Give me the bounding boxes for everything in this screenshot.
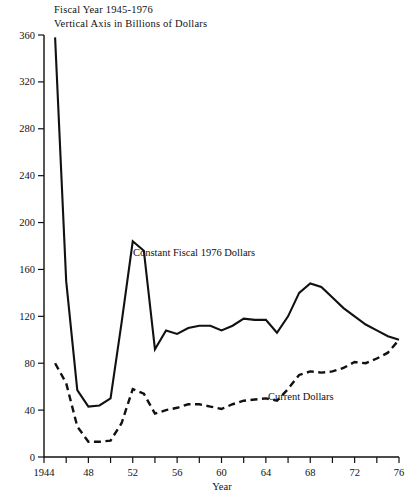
series-line-constant-fiscal-1976-dollars bbox=[55, 37, 399, 406]
x-tick-label: 1944 bbox=[34, 467, 56, 478]
y-tick-label: 0 bbox=[30, 452, 35, 463]
x-tick-label: 52 bbox=[128, 467, 139, 478]
chart-container: Fiscal Year 1945-1976 Vertical Axis in B… bbox=[0, 0, 415, 500]
annotation-current-dollars: Current Dollars bbox=[268, 391, 334, 402]
x-tick-label: 72 bbox=[349, 467, 360, 478]
y-tick-label: 160 bbox=[19, 264, 35, 275]
line-chart-svg: 04080120160200240280320360 1944485256606… bbox=[0, 0, 415, 500]
data-series-group bbox=[55, 37, 399, 441]
x-tick-label: 60 bbox=[216, 467, 227, 478]
x-tick-label: 68 bbox=[305, 467, 316, 478]
y-tick-label: 280 bbox=[19, 123, 35, 134]
x-tick-label: 76 bbox=[394, 467, 405, 478]
x-axis: 19444852566064687276 bbox=[34, 457, 405, 478]
y-tick-label: 320 bbox=[19, 76, 35, 87]
x-tick-label: 48 bbox=[83, 467, 94, 478]
annotation-constant-dollars: Constant Fiscal 1976 Dollars bbox=[133, 247, 255, 258]
y-tick-label: 360 bbox=[19, 30, 35, 41]
x-axis-title: Year bbox=[212, 481, 232, 492]
series-line-current-dollars bbox=[55, 340, 399, 442]
x-tick-label: 64 bbox=[261, 467, 272, 478]
y-axis: 04080120160200240280320360 bbox=[19, 30, 44, 463]
x-tick-label: 56 bbox=[172, 467, 183, 478]
y-tick-label: 200 bbox=[19, 217, 35, 228]
axis-frame bbox=[44, 35, 399, 457]
y-tick-label: 120 bbox=[19, 311, 35, 322]
y-tick-label: 40 bbox=[25, 405, 36, 416]
y-tick-label: 80 bbox=[25, 358, 36, 369]
y-tick-label: 240 bbox=[19, 170, 35, 181]
